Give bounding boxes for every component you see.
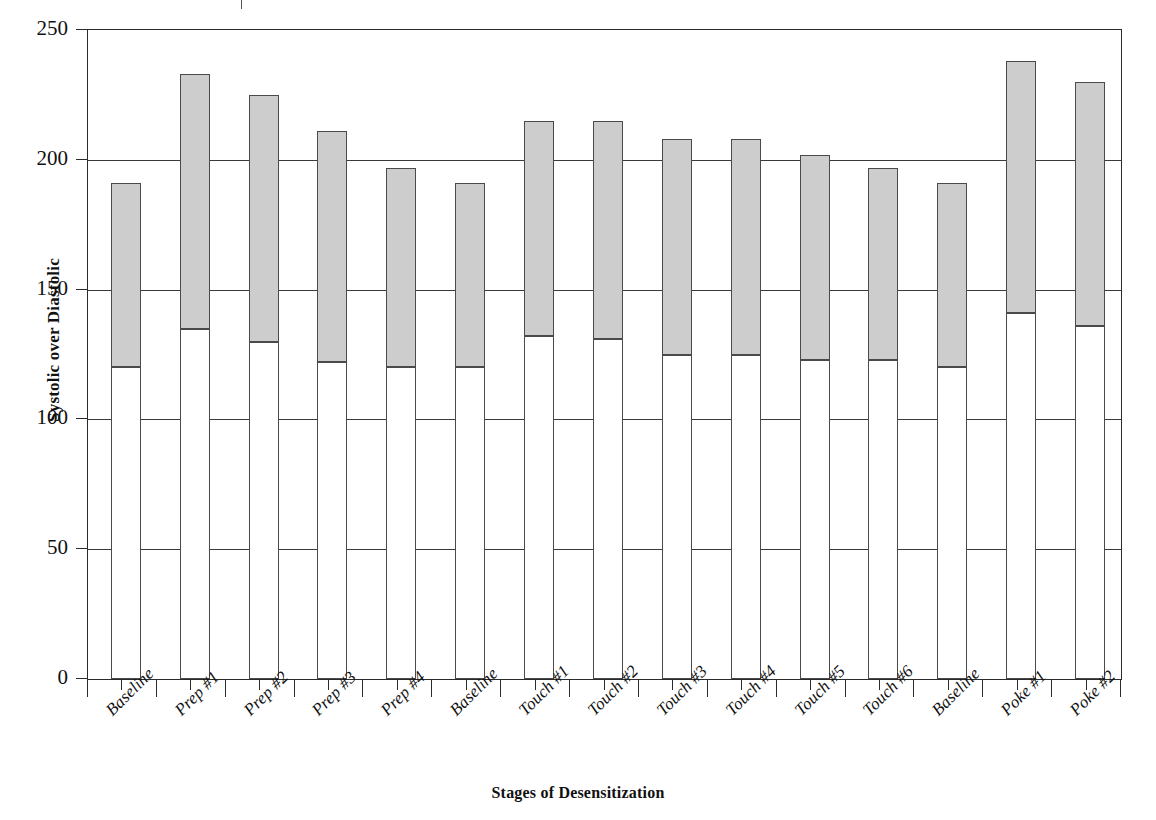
bar xyxy=(868,168,898,679)
x-axis-tick-major xyxy=(500,679,501,697)
bar-segment-diastolic xyxy=(111,367,141,679)
bar-segment-diastolic xyxy=(524,336,554,679)
bar-segment-diastolic xyxy=(455,367,485,679)
bar xyxy=(455,183,485,679)
bar-segment-systolic xyxy=(593,121,623,339)
y-axis-tick-label: 50 xyxy=(10,537,68,558)
y-axis-tick-label: 150 xyxy=(10,278,68,299)
x-axis-tick-major xyxy=(225,679,226,697)
y-axis-tick-label: 100 xyxy=(10,407,68,428)
x-axis-tick-major xyxy=(776,679,777,697)
bar xyxy=(662,139,692,679)
bar-segment-diastolic xyxy=(868,360,898,679)
y-axis-tick-mark xyxy=(76,678,87,679)
y-axis-tick-label: 250 xyxy=(10,18,68,39)
bar xyxy=(800,155,830,679)
x-axis-tick-major xyxy=(1120,679,1121,697)
y-axis-tick-mark xyxy=(76,159,87,160)
bar-segment-systolic xyxy=(111,183,141,367)
bar-chart-figure: Systolic over Diastolic 050100150200250 … xyxy=(0,0,1156,820)
bar-segment-systolic xyxy=(1006,61,1036,313)
y-axis-tick-mark xyxy=(76,418,87,419)
bar xyxy=(111,183,141,679)
x-axis-tick-major xyxy=(87,679,88,697)
bar-segment-diastolic xyxy=(249,342,279,679)
bar xyxy=(386,168,416,679)
bar-segment-diastolic xyxy=(1075,326,1105,679)
bar xyxy=(731,139,761,679)
plot-area xyxy=(87,29,1122,680)
y-axis-tick-mark xyxy=(76,29,87,30)
bar xyxy=(937,183,967,679)
x-axis-tick-major xyxy=(982,679,983,697)
bar-segment-systolic xyxy=(524,121,554,336)
bar xyxy=(317,131,347,679)
bar-segment-systolic xyxy=(249,95,279,342)
x-axis-tick-major xyxy=(431,679,432,697)
x-axis-tick-major xyxy=(569,679,570,697)
bar-segment-systolic xyxy=(662,139,692,354)
bar xyxy=(593,121,623,679)
y-axis-tick-label: 0 xyxy=(10,667,68,688)
bar-segment-diastolic xyxy=(937,367,967,679)
bar-segment-diastolic xyxy=(662,355,692,680)
bar xyxy=(249,95,279,679)
x-axis-tick-major xyxy=(707,679,708,697)
bar xyxy=(524,121,554,679)
bar-segment-systolic xyxy=(317,131,347,362)
bar-segment-systolic xyxy=(800,155,830,360)
x-axis-tick-major xyxy=(638,679,639,697)
y-axis-tick-label: 200 xyxy=(10,148,68,169)
x-axis-title: Stages of Desensitization xyxy=(0,784,1156,802)
bar-segment-systolic xyxy=(937,183,967,367)
bar-segment-systolic xyxy=(386,168,416,368)
bar-segment-diastolic xyxy=(317,362,347,679)
y-axis-tick-mark xyxy=(76,289,87,290)
x-axis-tick-major xyxy=(156,679,157,697)
x-axis-tick-major xyxy=(913,679,914,697)
y-axis-tick-mark xyxy=(76,548,87,549)
bar-segment-diastolic xyxy=(180,329,210,679)
bar-segment-diastolic xyxy=(1006,313,1036,679)
bar-segment-diastolic xyxy=(593,339,623,679)
x-axis-tick-major xyxy=(362,679,363,697)
bar-segment-diastolic xyxy=(800,360,830,679)
bar xyxy=(1006,61,1036,679)
bar-segment-systolic xyxy=(455,183,485,367)
y-axis-title: Systolic over Diastolic xyxy=(44,190,64,490)
bar xyxy=(1075,82,1105,679)
bar xyxy=(180,74,210,679)
x-axis-tick-major xyxy=(1051,679,1052,697)
top-artifact-mark xyxy=(241,0,242,9)
bar-segment-diastolic xyxy=(386,367,416,679)
bar-segment-systolic xyxy=(868,168,898,360)
x-axis-tick-major xyxy=(845,679,846,697)
bar-segment-diastolic xyxy=(731,355,761,680)
bar-segment-systolic xyxy=(180,74,210,328)
bar-segment-systolic xyxy=(1075,82,1105,326)
x-axis-tick-major xyxy=(294,679,295,697)
bar-segment-systolic xyxy=(731,139,761,354)
